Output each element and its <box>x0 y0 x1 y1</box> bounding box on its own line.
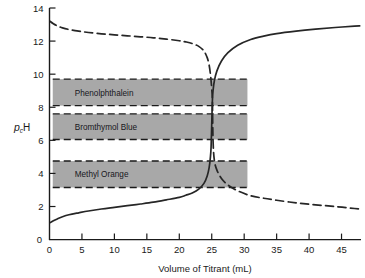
x-tick-label: 15 <box>142 244 153 255</box>
x-axis-title: Volume of Titrant (mL) <box>158 263 251 274</box>
indicator-band-label: Bromthymol Blue <box>75 123 138 132</box>
y-axis-title-h: H <box>23 122 30 133</box>
x-tick-label: 45 <box>336 244 347 255</box>
y-tick-label: 14 <box>33 3 44 14</box>
y-tick-label: 8 <box>38 102 43 113</box>
chart-canvas: 02468101214 051015202530354045 Phenolpht… <box>0 0 365 278</box>
x-tick-label: 35 <box>271 244 282 255</box>
x-tick-label: 30 <box>239 244 250 255</box>
indicator-band-label: Phenolphthalein <box>75 89 134 98</box>
x-tick-label: 20 <box>174 244 185 255</box>
y-tick-label: 10 <box>33 69 44 80</box>
x-tick-label: 5 <box>79 244 84 255</box>
y-tick-label: 0 <box>37 234 42 245</box>
titration-curve-figure: 02468101214 051015202530354045 Phenolpht… <box>0 0 365 278</box>
y-tick-label: 2 <box>38 201 43 212</box>
indicator-band-label: Methyl Orange <box>75 170 129 179</box>
x-tick-label: 25 <box>206 244 217 255</box>
y-tick-label: 6 <box>38 135 43 146</box>
y-tick-label: 12 <box>33 36 44 47</box>
x-tick-label: 0 <box>47 244 52 255</box>
x-tick-label: 10 <box>109 244 120 255</box>
y-tick-label: 4 <box>38 168 43 179</box>
x-tick-label: 40 <box>304 244 315 255</box>
